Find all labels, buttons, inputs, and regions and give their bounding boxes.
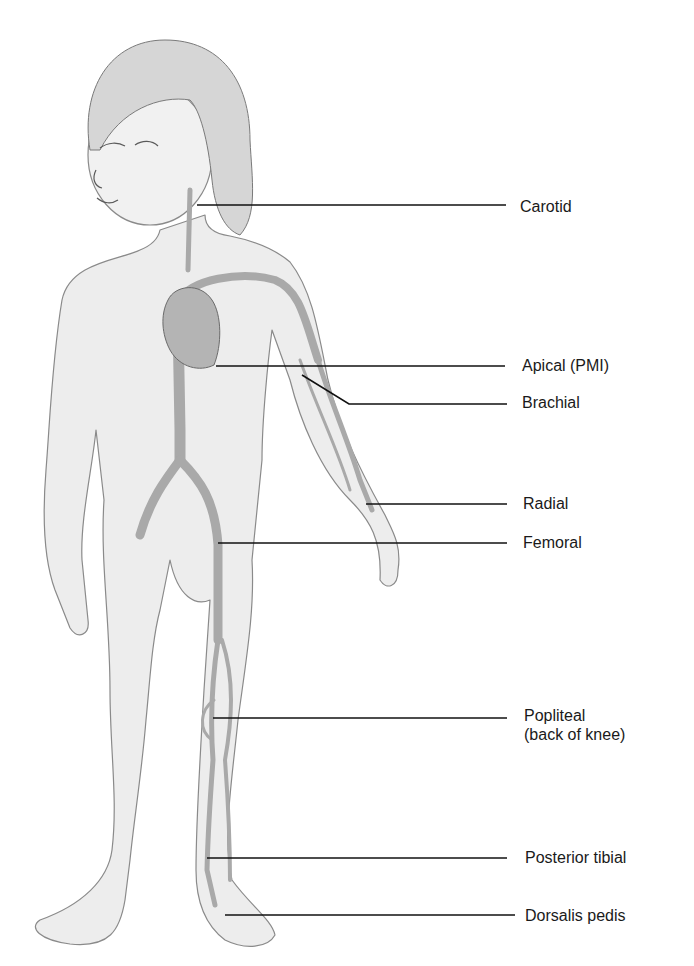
label-text: Posterior tibial bbox=[525, 849, 626, 866]
label-brachial: Brachial bbox=[522, 393, 580, 412]
label-popliteal: Popliteal(back of knee) bbox=[524, 706, 625, 744]
label-carotid: Carotid bbox=[520, 197, 572, 216]
label-posterior-tibial: Posterior tibial bbox=[525, 848, 626, 867]
label-dorsalis-pedis: Dorsalis pedis bbox=[525, 906, 625, 925]
label-text: Apical (PMI) bbox=[522, 357, 609, 374]
label-femoral: Femoral bbox=[523, 533, 582, 552]
label-text: Carotid bbox=[520, 198, 572, 215]
label-text: Femoral bbox=[523, 534, 582, 551]
child-anatomy-illustration bbox=[0, 0, 694, 966]
label-text: Brachial bbox=[522, 394, 580, 411]
label-apical: Apical (PMI) bbox=[522, 356, 609, 375]
label-text: Popliteal bbox=[524, 707, 585, 724]
label-subtext: (back of knee) bbox=[524, 725, 625, 744]
label-text: Dorsalis pedis bbox=[525, 907, 625, 924]
label-radial: Radial bbox=[523, 494, 568, 513]
label-text: Radial bbox=[523, 495, 568, 512]
